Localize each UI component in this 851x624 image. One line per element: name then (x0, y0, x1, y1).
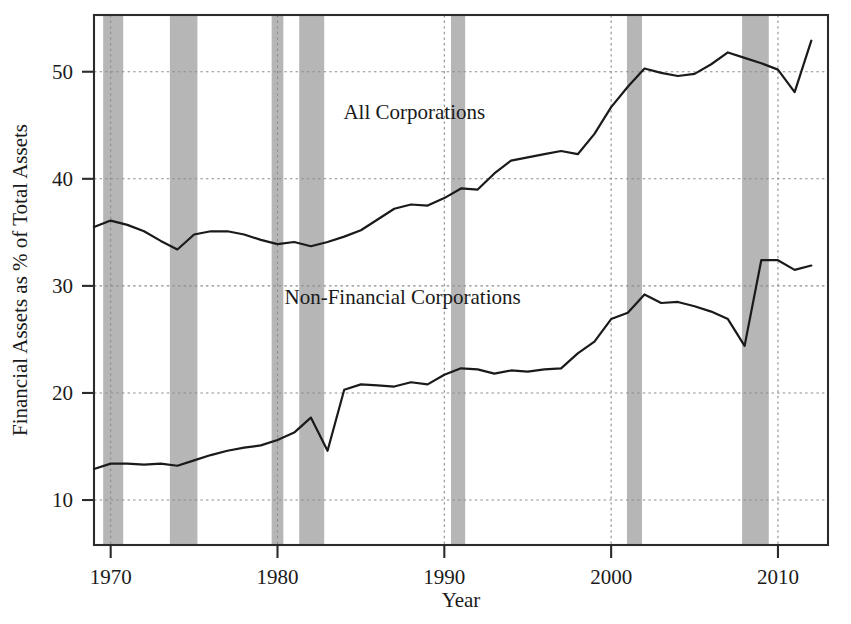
x-tick-label: 2010 (757, 565, 799, 589)
recession-band (742, 15, 769, 545)
y-tick-label: 30 (52, 274, 73, 298)
chart-background (0, 0, 851, 624)
y-tick-label: 10 (52, 488, 73, 512)
x-tick-label: 1980 (257, 565, 299, 589)
series-label-non-financial-corporations: Non-Financial Corporations (285, 285, 521, 309)
recession-band (451, 15, 465, 545)
y-tick-label: 40 (52, 167, 73, 191)
series-label-all-corporations: All Corporations (343, 100, 485, 124)
y-axis-title: Financial Assets as % of Total Assets (8, 124, 32, 436)
line-chart: 102030405019701980199020002010 All Corpo… (0, 0, 851, 624)
recession-band (627, 15, 642, 545)
chart-figure: 102030405019701980199020002010 All Corpo… (0, 0, 851, 624)
x-tick-label: 1970 (90, 565, 132, 589)
x-axis-title: Year (442, 588, 481, 612)
y-tick-label: 20 (52, 381, 73, 405)
y-tick-label: 50 (52, 60, 73, 84)
x-tick-label: 1990 (423, 565, 465, 589)
recession-band (299, 15, 324, 545)
x-tick-label: 2000 (590, 565, 632, 589)
